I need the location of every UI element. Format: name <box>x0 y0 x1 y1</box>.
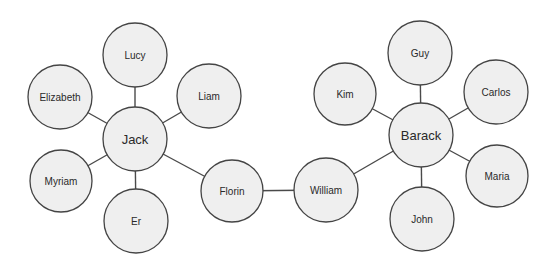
node-barack: Barack <box>389 103 453 167</box>
node-john: John <box>390 187 454 251</box>
node-guy: Guy <box>388 21 452 85</box>
node-label: Elizabeth <box>39 92 80 103</box>
nodes-layer: JackLucyElizabethLiamMyriamErFlorinWilli… <box>28 21 528 253</box>
node-label: William <box>310 185 342 196</box>
node-label: Florin <box>219 186 244 197</box>
node-elizabeth: Elizabeth <box>28 65 92 129</box>
node-label: Myriam <box>45 176 78 187</box>
node-carlos: Carlos <box>464 60 528 124</box>
node-jack: Jack <box>103 107 167 171</box>
node-label: Carlos <box>482 87 511 98</box>
node-label: Maria <box>484 171 509 182</box>
node-florin: Florin <box>201 160 263 222</box>
node-kim: Kim <box>314 63 376 125</box>
node-label: Liam <box>198 91 220 102</box>
node-label: John <box>411 214 433 225</box>
node-label: Er <box>131 216 142 227</box>
node-maria: Maria <box>466 145 528 207</box>
node-william: William <box>294 158 358 222</box>
node-er: Er <box>104 189 168 253</box>
node-label: Kim <box>336 89 353 100</box>
node-label: Lucy <box>124 50 145 61</box>
network-diagram: JackLucyElizabethLiamMyriamErFlorinWilli… <box>0 0 555 269</box>
node-liam: Liam <box>177 64 241 128</box>
node-lucy: Lucy <box>103 23 167 87</box>
node-label: Jack <box>122 132 149 147</box>
node-label: Guy <box>411 48 429 59</box>
node-myriam: Myriam <box>30 150 92 212</box>
node-label: Barack <box>401 128 442 143</box>
